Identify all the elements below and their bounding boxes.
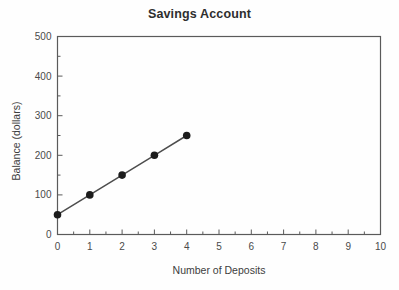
x-tick-label: 9 <box>345 241 351 252</box>
x-tick-label: 3 <box>152 241 158 252</box>
y-tick-label: 200 <box>35 150 52 161</box>
x-tick-label: 8 <box>313 241 319 252</box>
chart-container: Savings Account Balance (dollars) Number… <box>0 0 399 290</box>
data-point-marker <box>54 211 62 219</box>
y-tick-label: 0 <box>46 229 52 240</box>
y-tick-label: 400 <box>35 71 52 82</box>
data-point-marker <box>118 171 126 179</box>
y-tick-label: 300 <box>35 110 52 121</box>
data-point-marker <box>151 152 159 160</box>
x-tick-label: 0 <box>55 241 61 252</box>
x-tick-label: 1 <box>87 241 93 252</box>
x-tick-label: 7 <box>281 241 287 252</box>
data-point-marker <box>86 191 94 199</box>
plot-area: 0123456789100100200300400500 <box>0 0 399 290</box>
plot-frame <box>58 37 381 235</box>
x-tick-label: 2 <box>119 241 125 252</box>
x-tick-label: 6 <box>249 241 255 252</box>
data-point-marker <box>183 132 191 140</box>
x-tick-label: 5 <box>216 241 222 252</box>
x-tick-label: 10 <box>375 241 387 252</box>
x-tick-label: 4 <box>184 241 190 252</box>
y-tick-label: 100 <box>35 189 52 200</box>
y-tick-label: 500 <box>35 31 52 42</box>
